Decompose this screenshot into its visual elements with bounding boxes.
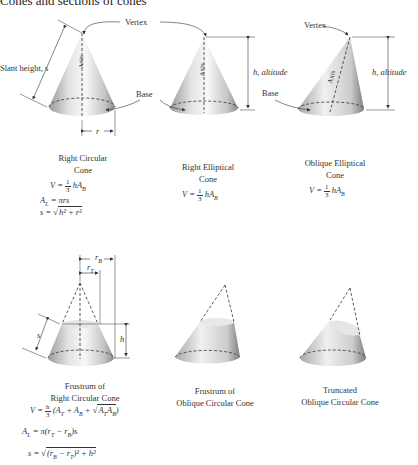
caption-frustrum-oblique-circular: Frustrum ofOblique Circular Cone — [160, 385, 270, 409]
formula-volume-right-elliptical: V = 13 hAB — [182, 188, 218, 203]
vertex-label-oblique: Vertex — [304, 20, 326, 30]
caption-frustrum-right-circular: Frustrum ofRight Circular Cone — [30, 380, 140, 404]
formula-slant-right-circular: s = √h² + r² — [40, 207, 82, 217]
formula-volume-oblique-elliptical: V = 13 hAB — [309, 184, 345, 199]
s-label: s — [37, 330, 40, 340]
formula-volume-frustrum: V = h3 (AT + AB + √ATAB) — [30, 404, 119, 419]
formula-lateral-right-circular: AL = πrs — [40, 195, 69, 207]
formula-lateral-frustrum: AL = π(rT − rB)s — [22, 426, 77, 438]
caption-right-elliptical-cone: Right EllipticalCone — [163, 161, 253, 185]
rb-label: rB — [95, 252, 102, 264]
altitude-label: h, altitude — [253, 67, 287, 77]
formula-volume-right-circular: V = 13 hAB — [50, 179, 86, 194]
frustrum-oblique-circular-cone — [175, 285, 240, 364]
right-circular-cone — [20, 20, 115, 136]
axis-label-1: Axis — [77, 55, 85, 68]
formula-slant-frustrum: s = √(rB − rT)² + h² — [28, 448, 96, 460]
frustrum-right-circular-cone — [22, 255, 130, 366]
right-elliptical-cone — [170, 37, 255, 115]
caption-right-circular-cone: Right CircularCone — [38, 152, 128, 176]
axis-label-2: Axis — [198, 63, 206, 76]
caption-truncated-oblique-circular: TruncatedOblique Circular Cone — [280, 384, 400, 408]
h-label: h — [120, 334, 124, 344]
base-label: Base — [136, 89, 153, 99]
slant-height-label: Slant height, s — [0, 63, 48, 73]
altitude-label-oblique: h, altitude — [372, 67, 406, 77]
vertex-label: Vertex — [125, 17, 147, 27]
rt-label: rT — [87, 262, 94, 274]
radius-label: r — [96, 126, 99, 136]
truncated-oblique-circular-cone — [300, 288, 366, 366]
caption-oblique-elliptical-cone: Oblique EllipticalCone — [290, 157, 380, 181]
base-label-oblique: Base — [262, 88, 279, 98]
